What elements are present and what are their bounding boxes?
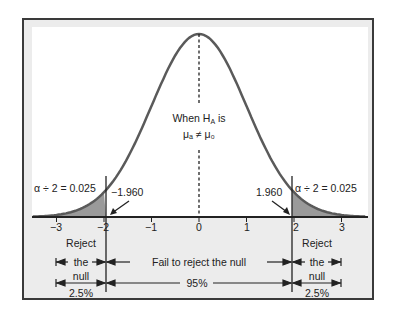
- left-alpha-label: α ÷ 2 = 0.025: [34, 182, 96, 194]
- tick-label-0: 0: [196, 221, 202, 233]
- left-reject-line3: null: [73, 270, 89, 282]
- right-critical-value-label: 1.960: [256, 186, 282, 198]
- normal-curve-plot: [0, 0, 393, 323]
- fail-to-reject-label: Fail to reject the null: [152, 256, 246, 268]
- hypothesis-label-line2: μₐ ≠ μ₀: [183, 128, 215, 140]
- tick-label-1: 1: [244, 221, 250, 233]
- tick-label-2: 2: [293, 221, 299, 233]
- right-reject-percent: 2.5%: [305, 287, 329, 299]
- right-reject-line3: null: [309, 270, 325, 282]
- left-reject-line2: the: [74, 256, 89, 268]
- right-alpha-label: α ÷ 2 = 0.025: [295, 182, 357, 194]
- tick-label-3: 3: [339, 221, 345, 233]
- tick-label-neg1: −1: [145, 221, 157, 233]
- right-reject-line2: the: [310, 256, 325, 268]
- hypothesis-label-line1: When HA is: [172, 112, 225, 128]
- right-reject-line1: Reject: [302, 237, 332, 249]
- fail-to-reject-percent: 95%: [186, 277, 207, 289]
- tick-label-neg2: −2: [97, 221, 109, 233]
- left-reject-percent: 2.5%: [69, 287, 93, 299]
- left-reject-line1: Reject: [66, 237, 96, 249]
- tick-label-neg3: −3: [50, 221, 62, 233]
- left-critical-value-label: −1.960: [111, 186, 143, 198]
